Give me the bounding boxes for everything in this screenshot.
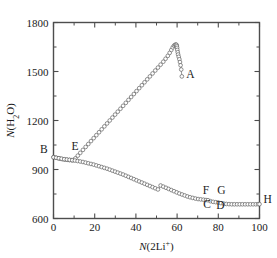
data-point-marker bbox=[258, 202, 262, 206]
x-tick-label: 40 bbox=[130, 221, 142, 233]
data-point-marker bbox=[179, 63, 183, 67]
x-tick-label: 20 bbox=[89, 221, 101, 233]
y-axis-title: N(H2O) bbox=[4, 103, 21, 139]
x-tick-label: 100 bbox=[251, 221, 268, 233]
x-tick-label: 0 bbox=[51, 221, 57, 233]
y-tick-label: 1800 bbox=[27, 17, 50, 29]
chart-svg: 020406080100600900120015001800 ABCDEFGH … bbox=[0, 0, 277, 258]
point-label-e: E bbox=[72, 140, 79, 152]
data-point-marker bbox=[156, 188, 160, 192]
point-label-g: G bbox=[217, 184, 225, 196]
axis-layer: 020406080100600900120015001800 bbox=[27, 17, 269, 233]
point-label-c: C bbox=[203, 198, 211, 210]
data-point-marker bbox=[180, 75, 184, 79]
y-tick-label: 900 bbox=[32, 164, 49, 176]
data-series bbox=[52, 155, 262, 206]
point-label-a: A bbox=[186, 68, 195, 80]
y-tick-label: 1500 bbox=[27, 66, 50, 78]
point-label-f: F bbox=[203, 184, 209, 196]
x-tick-label: 80 bbox=[213, 221, 225, 233]
x-tick-label: 60 bbox=[172, 221, 184, 233]
y-tick-label: 1200 bbox=[27, 115, 50, 127]
y-tick-label: 600 bbox=[32, 213, 49, 225]
point-label-d: D bbox=[216, 199, 224, 211]
x-axis-title: N(2Li+) bbox=[138, 239, 174, 254]
figure-container: 020406080100600900120015001800 ABCDEFGH … bbox=[0, 0, 277, 258]
point-label-b: B bbox=[40, 143, 48, 155]
point-label-h: H bbox=[264, 193, 272, 205]
series-layer bbox=[52, 43, 262, 206]
data-point-marker bbox=[179, 68, 183, 72]
